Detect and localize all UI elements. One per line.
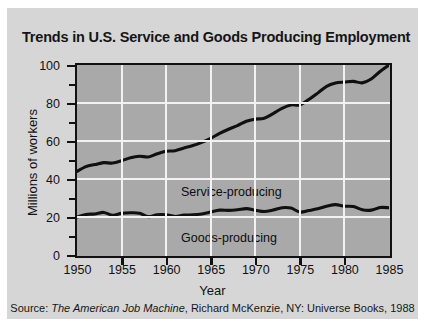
plot-inner: Service-producing Goods-producing xyxy=(77,65,390,256)
y-axis-tick-label: 100 xyxy=(30,60,60,72)
y-axis-tick-label: 40 xyxy=(30,174,60,186)
source-prefix: Source: xyxy=(10,302,51,314)
x-axis-tick-mark xyxy=(299,258,302,265)
y-axis-tick-label: 0 xyxy=(30,250,60,262)
source-title: The American Job Machine xyxy=(51,302,185,314)
y-axis-tick-major xyxy=(67,65,76,68)
x-axis-tick-mark xyxy=(255,258,258,265)
x-axis-tick-mark xyxy=(121,258,124,265)
y-axis-tick-major xyxy=(67,217,76,220)
x-axis-tick-label: 1965 xyxy=(186,264,236,277)
y-axis-tick-minor xyxy=(69,160,76,163)
source-note: Source: The American Job Machine, Richar… xyxy=(0,302,425,314)
series-line-service-producing xyxy=(77,65,389,171)
y-axis-tick-minor xyxy=(69,122,76,125)
gridline-vertical xyxy=(299,65,301,256)
y-axis-tick-label: 20 xyxy=(30,212,60,224)
x-axis-tick-label: 1975 xyxy=(275,264,325,277)
y-axis-tick-major xyxy=(67,103,76,106)
x-axis-tick-label: 1985 xyxy=(365,264,415,277)
x-axis-tick-mark xyxy=(210,258,213,265)
x-axis-tick-label: 1980 xyxy=(320,264,370,277)
gridline-vertical xyxy=(165,65,167,256)
series-layer xyxy=(77,65,389,255)
x-axis-tick-label: 1950 xyxy=(53,264,103,277)
x-axis-tick-label: 1955 xyxy=(97,264,147,277)
gridline-vertical xyxy=(121,65,123,256)
x-axis-tick-mark xyxy=(344,258,347,265)
series-label-goods-producing: Goods-producing xyxy=(181,231,277,245)
gridline-vertical xyxy=(254,65,256,256)
chart-title: Trends in U.S. Service and Goods Produci… xyxy=(22,25,412,49)
source-suffix: , Richard McKenzie, NY: Universe Books, … xyxy=(185,302,415,314)
y-axis-tick-minor xyxy=(69,84,76,87)
y-axis-tick-major xyxy=(67,179,76,182)
x-axis-tick-label: 1960 xyxy=(142,264,192,277)
y-axis-tick-major xyxy=(67,255,76,258)
gridline-vertical xyxy=(210,65,212,256)
chart-figure: Trends in U.S. Service and Goods Produci… xyxy=(0,0,425,335)
y-axis-tick-major xyxy=(67,141,76,144)
series-label-service-producing: Service-producing xyxy=(181,185,282,199)
y-axis-tick-label: 80 xyxy=(30,98,60,110)
y-axis-tick-label: 60 xyxy=(30,136,60,148)
gridline-vertical xyxy=(343,65,345,256)
x-axis-title: Year xyxy=(0,283,425,298)
x-axis-tick-mark xyxy=(166,258,169,265)
plot-area: Service-producing Goods-producing xyxy=(75,63,392,258)
y-axis-tick-minor xyxy=(69,236,76,239)
y-axis-tick-minor xyxy=(69,198,76,201)
x-axis-tick-label: 1970 xyxy=(231,264,281,277)
